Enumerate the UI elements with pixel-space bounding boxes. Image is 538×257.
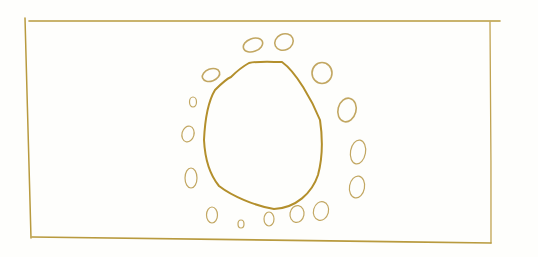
frame-bottom-edge xyxy=(32,237,491,243)
small-oval-7 xyxy=(180,125,196,144)
sketch-canvas xyxy=(0,0,538,257)
small-oval-15 xyxy=(311,200,330,222)
small-oval-10 xyxy=(348,175,367,199)
small-oval-11 xyxy=(207,207,218,223)
small-oval-2 xyxy=(272,31,296,54)
small-oval-6 xyxy=(335,96,359,124)
sketch-drawing xyxy=(0,0,538,257)
small-oval-9 xyxy=(185,168,197,188)
small-oval-12 xyxy=(238,220,244,228)
small-oval-14 xyxy=(289,204,306,223)
small-oval-4 xyxy=(312,63,332,84)
small-oval-13 xyxy=(264,212,274,226)
frame-right-edge xyxy=(490,22,491,243)
oval-ring xyxy=(180,31,367,228)
frame-top-edge xyxy=(29,20,500,21)
small-oval-3 xyxy=(200,66,221,83)
center-large-circle xyxy=(204,62,322,209)
small-oval-8 xyxy=(349,139,368,165)
frame-rectangle xyxy=(25,18,500,243)
frame-left-edge xyxy=(25,18,31,238)
small-oval-1 xyxy=(241,35,264,54)
small-oval-5 xyxy=(190,97,197,107)
